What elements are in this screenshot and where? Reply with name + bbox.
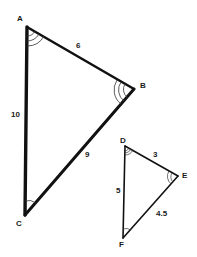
side-label-ab: 6 bbox=[76, 42, 80, 50]
vertex-label-c: C bbox=[16, 220, 22, 228]
vertex-label-b: B bbox=[140, 82, 146, 90]
side-label-ef: 4.5 bbox=[156, 210, 167, 218]
similar-triangles-diagram bbox=[0, 0, 197, 257]
vertex-label-f: F bbox=[119, 241, 124, 249]
side-label-df: 5 bbox=[116, 187, 120, 195]
side-ef bbox=[123, 176, 178, 238]
vertex-label-d: D bbox=[120, 137, 126, 145]
side-label-bc: 9 bbox=[85, 151, 89, 159]
side-label-de: 3 bbox=[153, 151, 157, 159]
side-bc bbox=[25, 89, 134, 215]
vertex-label-e: E bbox=[182, 172, 187, 180]
side-ab bbox=[27, 27, 134, 89]
side-label-ac: 10 bbox=[11, 111, 20, 119]
side-ac bbox=[25, 27, 27, 215]
triangle-def bbox=[123, 146, 178, 238]
vertex-label-a: A bbox=[17, 15, 23, 23]
side-df bbox=[123, 146, 125, 238]
